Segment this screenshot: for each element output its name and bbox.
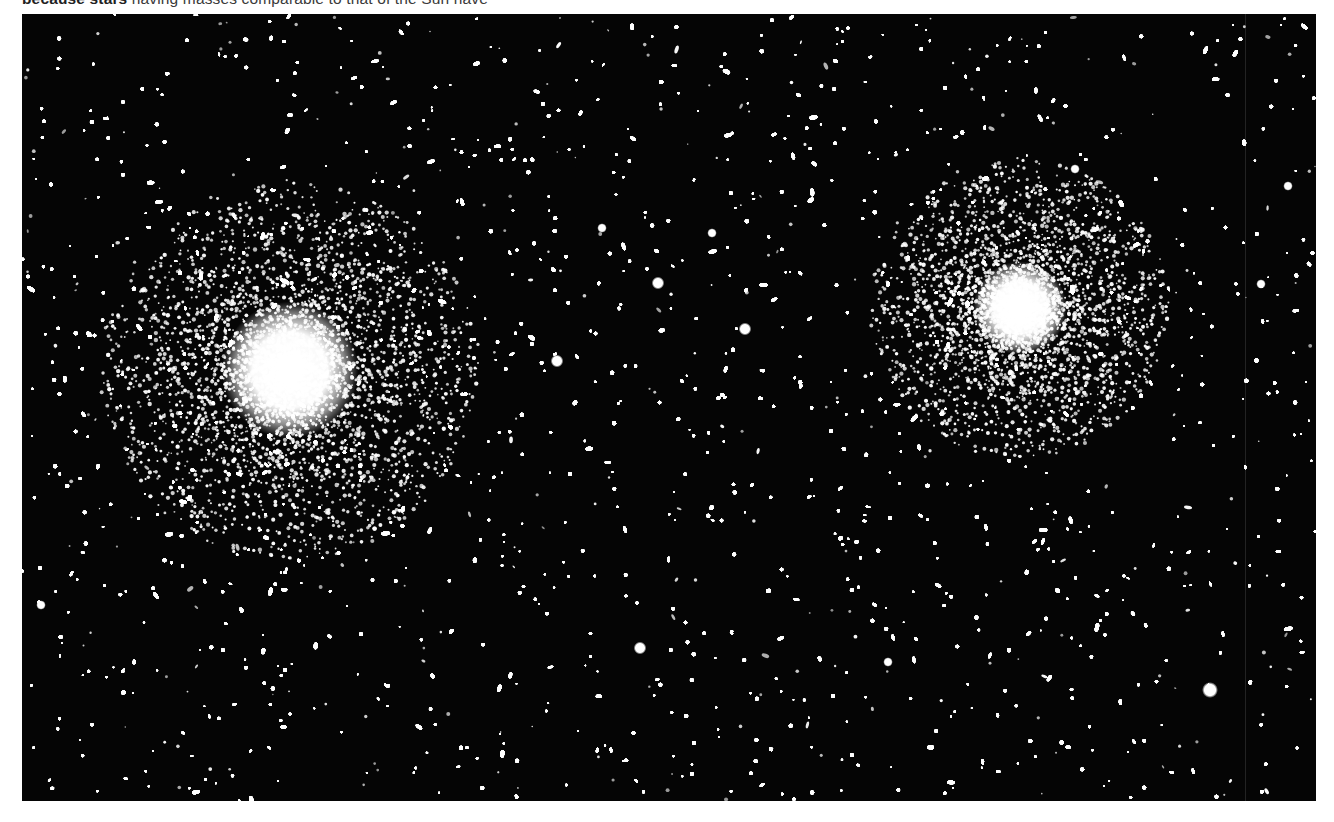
clipped-body-text: because stars having masses comparable t… xyxy=(22,0,488,6)
star-field-photograph xyxy=(22,14,1316,801)
star-field-canvas xyxy=(22,14,1316,801)
clipped-text-rest: having masses comparable to that of the … xyxy=(127,0,488,7)
clipped-text-bold: because stars xyxy=(22,0,127,7)
